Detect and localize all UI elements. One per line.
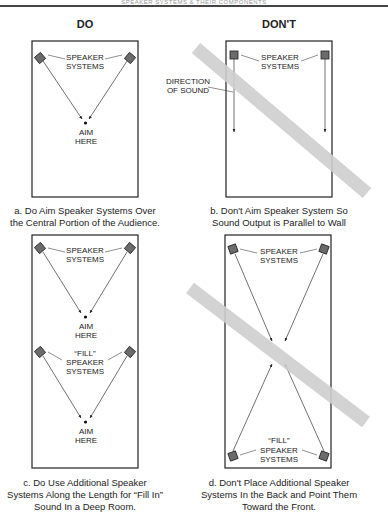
- caption-line: the Central Portion of the Audience.: [2, 217, 168, 229]
- caption-line: Sound Output is Parallel to Wall: [196, 217, 362, 229]
- speaker-label: SPEAKER: [261, 53, 299, 62]
- caption-line: d. Don't Place Additional Speaker: [191, 477, 367, 489]
- speaker-label: SYSTEMS: [260, 256, 298, 265]
- panel-c: SPEAKER SYSTEMS AIM HERE “FILL” SPEAKER …: [32, 235, 138, 468]
- direction-label: DIRECTION: [166, 77, 210, 86]
- caption-d: d. Don't Place Additional Speaker System…: [191, 477, 367, 513]
- aim-label: HERE: [75, 436, 97, 445]
- aim-label: HERE: [75, 331, 97, 340]
- caption-line: Systems Along the Length for “Fill In”: [0, 489, 172, 501]
- aim-point: [84, 315, 87, 318]
- dont-strike-band: [190, 288, 366, 422]
- aim-label: AIM: [79, 427, 94, 436]
- direction-label: OF SOUND: [167, 86, 209, 95]
- aim-point: [84, 420, 87, 423]
- speaker-icon: [321, 51, 329, 59]
- caption-line: Sound In a Deep Room.: [0, 501, 172, 513]
- speaker-label: SPEAKER: [260, 247, 298, 256]
- speaker-label: SYSTEMS: [66, 255, 104, 264]
- fill-speaker-label: SYSTEMS: [260, 455, 298, 464]
- caption-line: a. Do Aim Speaker Systems Over: [2, 205, 168, 217]
- fill-speaker-icon: [124, 346, 135, 357]
- fill-speaker-icon: [34, 346, 45, 357]
- fill-speaker-label: SPEAKER: [260, 446, 298, 455]
- caption-a: a. Do Aim Speaker Systems Over the Centr…: [2, 205, 168, 229]
- aim-label: AIM: [79, 322, 94, 331]
- fill-speaker-icon: [319, 451, 329, 461]
- aim-point: [84, 121, 87, 124]
- caption-line: Toward the Front.: [191, 501, 367, 513]
- panel-b: SPEAKER SYSTEMS DIRECTION OF SOUND: [166, 41, 332, 197]
- caption-line: c. Do Use Additional Speaker: [0, 477, 172, 489]
- speaker-icon: [228, 244, 238, 254]
- speaker-label: SYSTEMS: [261, 62, 299, 71]
- fill-speaker-label: “FILL”: [74, 349, 96, 358]
- fill-speaker-icon: [228, 451, 238, 461]
- speaker-icon: [34, 242, 45, 253]
- fill-speaker-label: SYSTEMS: [66, 367, 104, 376]
- caption-b: b. Don't Aim Speaker System So Sound Out…: [196, 205, 362, 229]
- fill-speaker-label: “FILL”: [268, 436, 290, 445]
- caption-line: Systems In the Back and Point Them: [191, 489, 367, 501]
- speaker-placement-diagram: SPEAKER SYSTEMS AIM HERE SPEAKER SYSTEMS…: [0, 0, 388, 522]
- caption-line: b. Don't Aim Speaker System So: [196, 205, 362, 217]
- caption-c: c. Do Use Additional Speaker Systems Alo…: [0, 477, 172, 513]
- panel-a: SPEAKER SYSTEMS AIM HERE: [32, 41, 138, 197]
- speaker-icon: [230, 51, 238, 59]
- fill-speaker-label: SPEAKER: [66, 358, 104, 367]
- speaker-label: SPEAKER: [66, 246, 104, 255]
- speaker-label: SYSTEMS: [66, 62, 104, 71]
- speaker-label: SPEAKER: [66, 53, 104, 62]
- sound-direction-arrow: [233, 364, 272, 451]
- aim-label: HERE: [75, 137, 97, 146]
- speaker-icon: [124, 242, 135, 253]
- sound-direction-arrow: [285, 254, 323, 341]
- speaker-icon: [319, 244, 329, 254]
- aim-label: AIM: [79, 128, 94, 137]
